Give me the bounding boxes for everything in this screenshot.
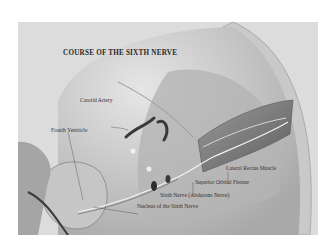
anatomy-illustration: COURSE OF THE SIXTH NERVE Carotid Artery… — [18, 22, 318, 235]
label-superior-orbital-fissure: Superior Orbital Fissure — [195, 180, 249, 186]
label-sixth-nerve: Sixth Nerve (Abducens Nerve) — [160, 193, 229, 199]
label-lateral-rectus-muscle: Lateral Rectus Muscle — [226, 166, 276, 172]
label-carotid-artery: Carotid Artery — [80, 98, 112, 104]
label-fourth-ventricle: Fourth Ventricle — [51, 128, 87, 134]
figure-title: COURSE OF THE SIXTH NERVE — [63, 49, 177, 57]
label-nucleus-sixth-nerve: Nucleus of the Sixth Nerve — [137, 204, 198, 210]
